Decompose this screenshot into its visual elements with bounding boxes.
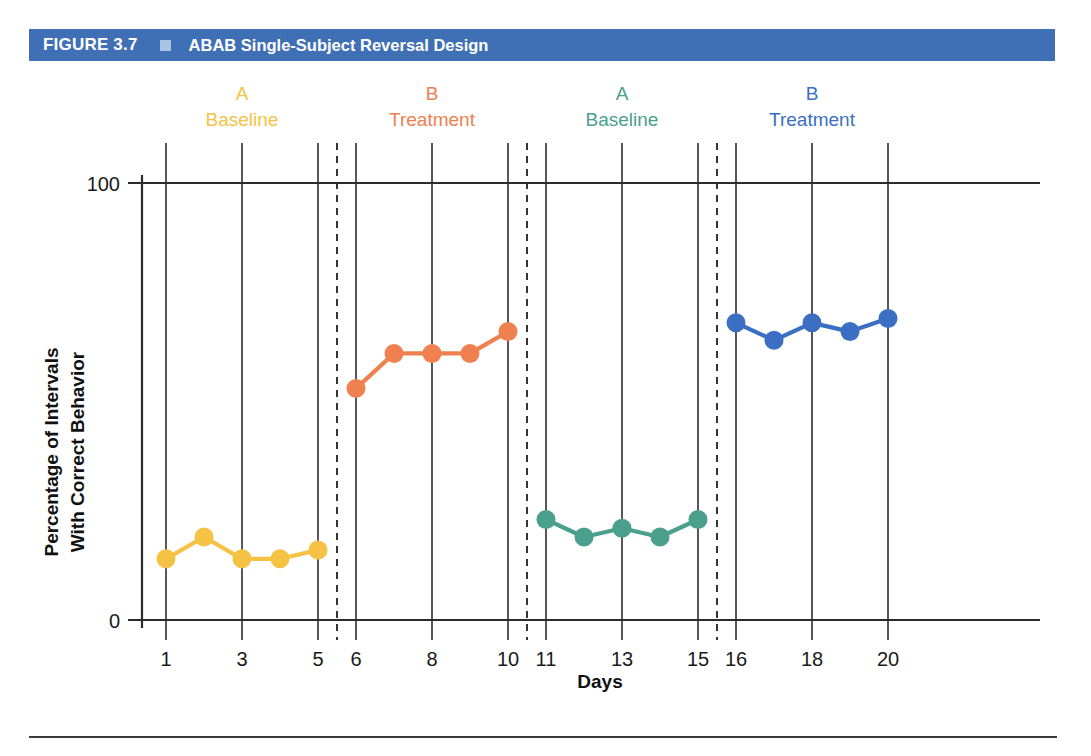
- x-tick-labels-group: 1356810111315161820: [160, 648, 899, 670]
- x-tick-label-13: 13: [611, 648, 633, 670]
- phase-4-name: Treatment: [769, 109, 856, 130]
- y-axis-title-line2: With Correct Behavior: [67, 351, 88, 552]
- x-tick-label-5: 5: [312, 648, 323, 670]
- data-point-day-10[interactable]: [499, 322, 518, 341]
- data-point-day-14[interactable]: [651, 527, 670, 546]
- data-point-day-9[interactable]: [461, 344, 480, 363]
- phase-4-letter: B: [806, 83, 819, 104]
- data-series-group: [157, 309, 898, 568]
- phase-2-letter: B: [426, 83, 439, 104]
- x-axis-title: Days: [577, 671, 622, 692]
- figure-number-label: FIGURE 3.7: [43, 35, 138, 55]
- x-tick-label-16: 16: [725, 648, 747, 670]
- x-tick-label-1: 1: [160, 648, 171, 670]
- abab-reversal-line-chart: ABaselineBTreatmentABaselineBTreatment 0…: [0, 62, 1091, 702]
- data-point-day-15[interactable]: [689, 510, 708, 529]
- x-tick-label-10: 10: [497, 648, 519, 670]
- x-tick-label-11: 11: [536, 648, 557, 670]
- phase-1-name: Baseline: [206, 109, 279, 130]
- data-point-day-8[interactable]: [423, 344, 442, 363]
- x-tick-label-6: 6: [350, 648, 361, 670]
- x-tick-label-20: 20: [877, 648, 899, 670]
- data-point-day-1[interactable]: [157, 549, 176, 568]
- bottom-rule-divider: [29, 736, 1057, 738]
- x-tick-label-18: 18: [801, 648, 823, 670]
- y-tick-label-100: 100: [87, 173, 120, 195]
- phase-3-letter: A: [616, 83, 629, 104]
- figure-title-label: ABAB Single-Subject Reversal Design: [189, 36, 489, 55]
- data-point-day-2[interactable]: [195, 527, 214, 546]
- square-marker-icon: [160, 40, 171, 51]
- data-point-day-18[interactable]: [803, 313, 822, 332]
- data-point-day-11[interactable]: [537, 510, 556, 529]
- phase-1-letter: A: [236, 83, 249, 104]
- data-point-day-3[interactable]: [233, 549, 252, 568]
- data-point-day-16[interactable]: [727, 313, 746, 332]
- data-point-day-6[interactable]: [347, 379, 366, 398]
- chart-container: ABaselineBTreatmentABaselineBTreatment 0…: [0, 62, 1091, 702]
- x-tick-label-3: 3: [236, 648, 247, 670]
- data-point-day-7[interactable]: [385, 344, 404, 363]
- data-point-day-13[interactable]: [613, 519, 632, 538]
- x-tick-label-8: 8: [426, 648, 437, 670]
- figure-header-bar: FIGURE 3.7 ABAB Single-Subject Reversal …: [29, 29, 1055, 61]
- x-tick-label-15: 15: [687, 648, 709, 670]
- phase-3-name: Baseline: [586, 109, 659, 130]
- data-point-day-20[interactable]: [879, 309, 898, 328]
- phase-labels-group: ABaselineBTreatmentABaselineBTreatment: [206, 83, 856, 130]
- phase-divider-group: [337, 143, 717, 640]
- data-point-day-17[interactable]: [765, 331, 784, 350]
- y-axis-title: Percentage of Intervals: [41, 347, 62, 556]
- data-point-day-5[interactable]: [309, 541, 328, 560]
- data-point-day-19[interactable]: [841, 322, 860, 341]
- phase-2-name: Treatment: [389, 109, 476, 130]
- y-tick-labels-group: 0100: [87, 173, 120, 632]
- y-tick-label-0: 0: [109, 610, 120, 632]
- data-point-day-12[interactable]: [575, 527, 594, 546]
- data-point-day-4[interactable]: [271, 549, 290, 568]
